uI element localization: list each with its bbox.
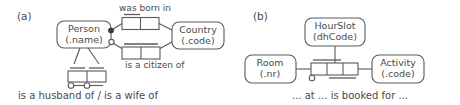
fact-type-citizen-of-label: is a citizen of xyxy=(125,60,185,70)
ring-constraint-circle-left xyxy=(68,83,74,89)
entity-activity[interactable]: Activity (.code) xyxy=(372,55,424,83)
diagram-svg-layer: (a) Person (.name) Country (.code) xyxy=(0,0,460,105)
mandatory-role-dot-bornin xyxy=(108,28,113,33)
fact-type-born-in-label: was born in xyxy=(119,3,171,13)
entity-hourslot-reference: (dhCode) xyxy=(313,31,357,42)
entity-activity-reference: (.code) xyxy=(381,68,414,79)
entity-room[interactable]: Room (.nr) xyxy=(245,55,296,83)
optional-role-circle-citizen xyxy=(109,39,114,44)
entity-person-reference: (.name) xyxy=(65,34,102,45)
optional-role-circle-booking xyxy=(309,75,315,81)
ring-constraint-circle-right xyxy=(84,83,90,89)
ring-constraint-spouse xyxy=(68,83,103,89)
entity-hourslot-name: HourSlot xyxy=(314,20,355,31)
panel-a-label: (a) xyxy=(17,10,32,22)
connector-bornin-country xyxy=(159,24,172,31)
entity-room-reference: (.nr) xyxy=(260,68,280,79)
panel-b-label: (b) xyxy=(253,10,268,22)
connector-person-spouse-role2 xyxy=(88,48,99,64)
entity-country-reference: (.code) xyxy=(181,35,214,46)
entity-person-name: Person xyxy=(68,23,100,34)
panel-b: (b) HourSlot (dhCode) Room (.nr) Activit… xyxy=(245,10,424,101)
fact-type-booking-box xyxy=(311,63,358,75)
orm-diagram-canvas: (a) Person (.name) Country (.code) xyxy=(0,0,460,105)
entity-person[interactable]: Person (.name) xyxy=(57,21,111,48)
entity-country-name: Country xyxy=(179,24,217,35)
fact-type-spouse-of-label: is a husband of / is a wife of xyxy=(18,90,158,101)
fact-type-spouse-of[interactable]: is a husband of / is a wife of xyxy=(18,68,158,101)
entity-country[interactable]: Country (.code) xyxy=(172,22,224,49)
connector-person-spouse-role1 xyxy=(74,48,80,64)
entity-room-name: Room xyxy=(256,57,283,68)
entity-hourslot[interactable]: HourSlot (dhCode) xyxy=(305,18,365,46)
connector-citizen-country xyxy=(160,42,172,49)
panel-a: (a) Person (.name) Country (.code) xyxy=(17,3,224,101)
fact-type-booking-label: ... at ... is booked for ... xyxy=(292,90,408,101)
entity-activity-name: Activity xyxy=(380,57,416,68)
